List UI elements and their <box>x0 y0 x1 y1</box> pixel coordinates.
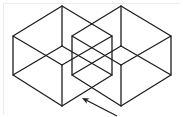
cubes-group <box>13 6 171 106</box>
diagram-canvas <box>0 0 183 117</box>
arrow-shaft <box>86 100 117 116</box>
cubes-illustration <box>0 0 183 117</box>
